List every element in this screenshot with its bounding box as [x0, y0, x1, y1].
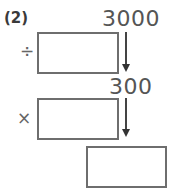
problem-label: (2) — [4, 9, 28, 27]
middle-value: 300 — [109, 76, 153, 98]
divide-operator: ÷ — [20, 43, 34, 60]
arrowhead-icon — [122, 64, 130, 72]
arrow-down-icon — [125, 32, 127, 65]
arrow-down-icon — [125, 98, 127, 130]
multiplier-answer-box[interactable] — [37, 98, 119, 140]
divisor-answer-box[interactable] — [37, 32, 119, 74]
arrowhead-icon — [122, 129, 130, 137]
result-answer-box[interactable] — [86, 146, 167, 188]
multiply-operator: × — [17, 110, 31, 127]
start-value: 3000 — [102, 8, 160, 30]
